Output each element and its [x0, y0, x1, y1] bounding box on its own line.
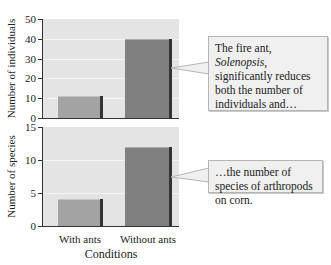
- x-axis-title: Conditions: [61, 247, 161, 262]
- callout-pointer: [170, 60, 210, 80]
- y-tick-label: 30: [16, 54, 36, 65]
- bottom-y-axis: [42, 127, 43, 227]
- bar-without-ants-individuals: [125, 39, 172, 118]
- y-tick-label: 5: [16, 188, 36, 199]
- y-tick-label: 40: [16, 34, 36, 45]
- callout-individuals: The fire ant, Solenopsis, significantly …: [208, 36, 328, 111]
- top-y-axis-label: Number of individuals: [5, 14, 18, 124]
- y-tick-label: 10: [16, 155, 36, 166]
- bottom-x-axis: [42, 226, 179, 227]
- callout-species: …the number of species of arthropods on …: [208, 160, 323, 193]
- y-tick-label: 20: [16, 73, 36, 84]
- y-tick-label: 0: [16, 221, 36, 232]
- callout-pointer: [170, 166, 210, 186]
- y-tick-label: 50: [16, 14, 36, 25]
- y-tick-label: 10: [16, 93, 36, 104]
- top-y-axis: [42, 19, 43, 119]
- bar-with-ants-species: [58, 199, 103, 226]
- bar-with-ants-individuals: [58, 96, 103, 118]
- bar-without-ants-species: [125, 147, 172, 226]
- x-category-label: Without ants: [108, 233, 188, 245]
- top-x-axis: [42, 118, 179, 119]
- y-tick-label: 15: [16, 122, 36, 133]
- bottom-y-axis-label: Number of species: [5, 127, 18, 227]
